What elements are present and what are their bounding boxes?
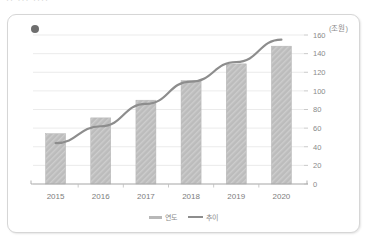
y-axis-tick-label: 80 — [313, 105, 321, 114]
legend-label-bar: 연도 — [165, 212, 177, 222]
combo-bar-line-chart: 0204060801001201401602015201620172018201… — [8, 15, 361, 234]
y-axis-tick-label: 0 — [313, 180, 317, 189]
y-axis-tick-label: 120 — [313, 68, 326, 77]
bar — [271, 46, 291, 184]
legend-swatch-bar-icon — [149, 216, 162, 219]
trend-line — [56, 40, 282, 143]
legend-item-line: 추이 — [188, 212, 218, 222]
bar — [136, 100, 156, 184]
y-axis-tick-label: 60 — [313, 124, 321, 133]
x-axis-category-label: 2017 — [137, 192, 155, 201]
y-axis-tick-label: 140 — [313, 49, 326, 58]
legend-label-line: 추이 — [206, 212, 218, 222]
chart-plot-area: 0204060801001201401602015201620172018201… — [8, 15, 361, 234]
x-axis-category-label: 2018 — [182, 192, 200, 201]
x-axis-category-label: 2015 — [47, 192, 65, 201]
clipped-heading-text: ·· ··· ···· — [6, 0, 206, 4]
card-marker-dot — [31, 25, 39, 33]
legend-swatch-line-icon — [188, 216, 203, 218]
y-axis-tick-label: 100 — [313, 87, 326, 96]
y-axis-tick-label: 160 — [313, 31, 326, 40]
bar — [226, 64, 246, 184]
bar — [181, 81, 201, 184]
bar — [46, 134, 66, 184]
chart-legend: 연도 추이 — [8, 212, 359, 222]
x-axis-category-label: 2019 — [227, 192, 245, 201]
y-axis-tick-label: 40 — [313, 143, 321, 152]
x-axis-category-label: 2016 — [92, 192, 110, 201]
y-axis-tick-label: 20 — [313, 161, 321, 170]
x-axis-category-label: 2020 — [273, 192, 291, 201]
legend-item-bar: 연도 — [149, 212, 177, 222]
chart-card: (조원) 02040608010012014016020152016201720… — [7, 14, 360, 233]
